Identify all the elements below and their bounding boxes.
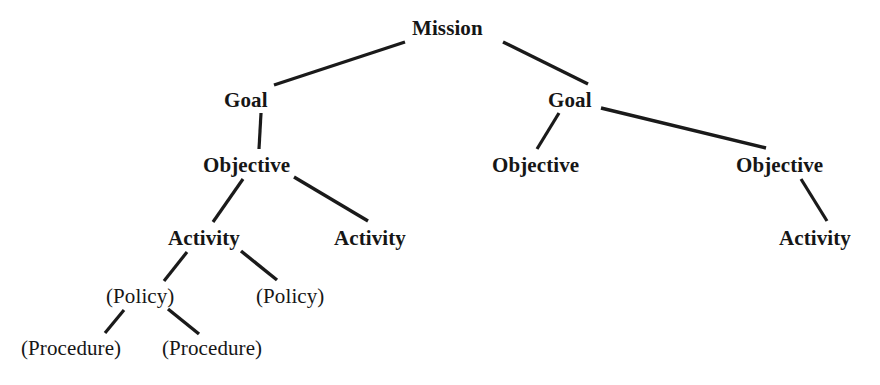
edge-goal-2-objective-2 <box>537 113 559 149</box>
node-procedure-1: (Procedure) <box>21 338 121 359</box>
edge-mission-goal-1 <box>274 42 405 85</box>
edge-mission-goal-2 <box>503 42 588 84</box>
node-mission: Mission <box>412 18 483 39</box>
connector-lines-layer <box>0 0 880 385</box>
edge-goal-2-objective-3 <box>601 108 766 148</box>
node-objective-1: Objective <box>203 155 290 176</box>
edge-objective-1-activity-2 <box>294 177 368 221</box>
node-goal-2: Goal <box>548 90 592 111</box>
node-activity-2: Activity <box>334 228 406 249</box>
edge-objective-3-activity-3 <box>801 179 827 221</box>
edge-policy-1-procedure-1 <box>105 310 124 333</box>
edge-policy-1-procedure-2 <box>168 309 199 334</box>
node-activity-3: Activity <box>779 228 851 249</box>
node-procedure-2: (Procedure) <box>162 338 262 359</box>
node-objective-2: Objective <box>492 155 579 176</box>
edge-activity-1-policy-2 <box>241 251 277 280</box>
edge-goal-1-objective-1 <box>259 113 261 149</box>
edge-objective-1-activity-1 <box>213 179 243 222</box>
mission-hierarchy-diagram: MissionGoalGoalObjectiveObjectiveObjecti… <box>0 0 880 385</box>
node-policy-1: (Policy) <box>106 286 174 307</box>
node-policy-2: (Policy) <box>256 286 324 307</box>
node-objective-3: Objective <box>736 155 823 176</box>
node-goal-1: Goal <box>224 90 268 111</box>
edge-activity-1-policy-1 <box>164 252 187 281</box>
node-activity-1: Activity <box>168 228 240 249</box>
